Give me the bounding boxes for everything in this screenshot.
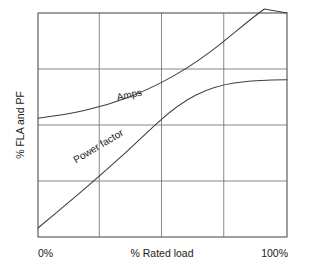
chart-canvas: Amps Power factor % Rated load 0% 100% %… (0, 0, 315, 273)
x-axis-min-tick-label: 0% (38, 247, 53, 259)
x-axis-max-tick-label: 100% (261, 247, 288, 259)
chart-figure: Amps Power factor % Rated load 0% 100% %… (0, 0, 315, 273)
x-axis-title: % Rated load (130, 247, 193, 259)
y-axis-title: % FLA and PF (14, 91, 26, 159)
